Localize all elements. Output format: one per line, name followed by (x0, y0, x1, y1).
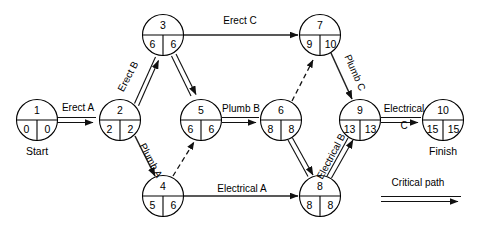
node-6-id: 6 (278, 104, 284, 116)
edge-6-7-dummy (292, 60, 313, 101)
legend-critical-path-label: Critical path (392, 177, 445, 188)
network-diagram: 1 0 0 Start 2 2 2 3 6 6 (0, 0, 479, 234)
node-3-late: 6 (171, 38, 177, 50)
edge-label-electrical-b: Electrical B (314, 131, 347, 181)
edge-label-electrical-a: Electrical A (217, 183, 267, 194)
node-4-early: 5 (150, 199, 156, 211)
edge-4-5-dummy (173, 142, 194, 176)
legend-critical-path-arrow (381, 197, 461, 202)
node-3[interactable]: 3 6 6 (143, 15, 184, 56)
node-10-id: 10 (437, 104, 449, 116)
node-2-early: 2 (107, 123, 113, 135)
edge-label-erect-a: Erect A (62, 102, 95, 113)
node-1-caption: Start (26, 145, 48, 157)
node-7-early: 9 (307, 38, 313, 50)
node-1[interactable]: 1 0 0 Start (17, 100, 58, 158)
node-5-late: 6 (209, 123, 215, 135)
node-10-caption: Finish (429, 145, 457, 157)
node-1-id: 1 (34, 104, 40, 116)
node-9-id: 9 (357, 104, 363, 116)
node-9[interactable]: 9 13 13 (340, 100, 381, 141)
edge-3-5-dummy (172, 54, 197, 96)
edge-5-6-plumb-b (222, 118, 259, 123)
node-1-late: 0 (45, 123, 51, 135)
edge-1-2-erect-a (57, 118, 96, 123)
node-5[interactable]: 5 6 6 (181, 100, 222, 141)
node-5-early: 6 (188, 123, 194, 135)
node-6[interactable]: 6 8 8 (261, 100, 302, 141)
node-10-late: 15 (448, 123, 460, 135)
node-5-id: 5 (198, 104, 204, 116)
edge-label-plumb-a: Plumb A (137, 141, 164, 179)
edge-6-8-dummy (288, 138, 313, 177)
node-10[interactable]: 10 15 15 Finish (423, 100, 464, 158)
node-3-id: 3 (160, 19, 166, 31)
node-1-early: 0 (24, 123, 30, 135)
node-9-late: 13 (365, 123, 377, 135)
node-3-early: 6 (150, 38, 156, 50)
node-8-early: 8 (307, 199, 313, 211)
legend-critical-path: Critical path (381, 177, 461, 202)
edge-label-electrical-c-line2: C (400, 120, 407, 131)
node-7-late: 10 (325, 38, 337, 50)
node-2[interactable]: 2 2 2 (100, 100, 141, 141)
edge-label-plumb-b: Plumb B (222, 103, 260, 114)
network-diagram-canvas: 1 0 0 Start 2 2 2 3 6 6 (0, 0, 479, 234)
node-9-early: 13 (344, 123, 356, 135)
edge-label-erect-b: Erect B (115, 59, 140, 93)
node-6-late: 8 (289, 123, 295, 135)
edge-label-erect-c: Erect C (223, 15, 256, 26)
node-8-late: 8 (328, 199, 334, 211)
node-10-early: 15 (427, 123, 439, 135)
node-2-late: 2 (128, 123, 134, 135)
node-4-late: 6 (171, 199, 177, 211)
node-7[interactable]: 7 9 10 (300, 15, 341, 56)
node-4[interactable]: 4 5 6 (143, 176, 184, 217)
node-7-id: 7 (317, 19, 323, 31)
node-8[interactable]: 8 8 8 (300, 176, 341, 217)
node-2-id: 2 (117, 104, 123, 116)
edge-label-electrical-c-line1: Electrical (384, 103, 425, 114)
node-8-id: 8 (317, 180, 323, 192)
node-6-early: 8 (268, 123, 274, 135)
node-4-id: 4 (160, 180, 166, 192)
